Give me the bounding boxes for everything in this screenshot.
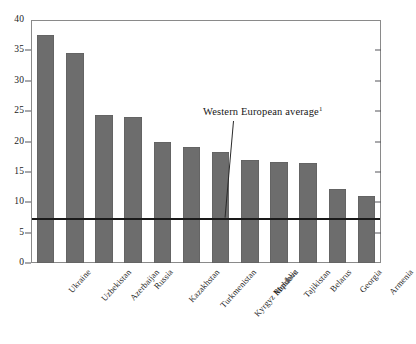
bar-turkmenistan	[183, 147, 201, 263]
bar-azerbaijan	[95, 115, 113, 263]
annotation-western-european-average: Western European average1	[203, 106, 322, 117]
bar-kyrgyz-republic	[212, 152, 230, 263]
bar-tajikistan	[270, 162, 288, 263]
x-label-turkmenistan: Turkmenistan	[218, 267, 258, 310]
x-label-kazakhstan: Kazakhstan	[187, 267, 222, 304]
x-label-uzbekistan: Uzbekistan	[99, 267, 133, 303]
bar-moldova	[241, 160, 259, 263]
annotation-footnote-marker: 1	[319, 105, 323, 112]
x-label-tajikistan: Tajikistan	[301, 267, 332, 300]
x-label-armenia: Armenia	[388, 267, 416, 297]
annotation-text: Western European average	[203, 106, 319, 117]
reference-line-western-european-average	[32, 218, 380, 220]
x-label-georgia: Georgia	[358, 267, 384, 295]
x-label-ukraine: Ukraine	[66, 267, 92, 295]
bar-series	[31, 20, 381, 263]
bar-russia	[124, 117, 142, 263]
bar-kazakhstan	[154, 142, 172, 264]
y-axis-ticks-left	[0, 20, 31, 263]
bar-belarus	[299, 163, 317, 263]
bar-armenia	[358, 196, 376, 263]
x-label-moldova: Moldova	[271, 267, 300, 297]
bar-ukraine	[37, 35, 55, 263]
x-axis-labels: UkraineUzbekistanAzerbaijanRussiaKazakhs…	[31, 263, 381, 344]
bar-uzbekistan	[66, 53, 84, 263]
x-label-belarus: Belarus	[328, 267, 353, 294]
bar-georgia	[329, 189, 347, 263]
